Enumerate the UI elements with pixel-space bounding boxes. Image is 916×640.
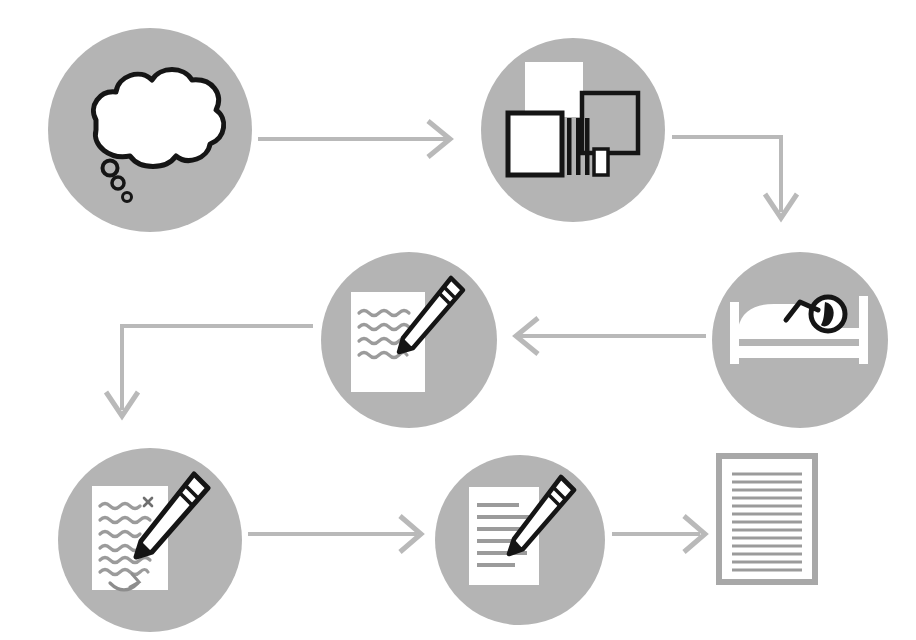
node-sleep-incubation[interactable]: [712, 252, 888, 428]
node-handwritten-draft[interactable]: [321, 252, 497, 428]
connector-sleep-to-draft: [516, 318, 706, 354]
thought-bubble-icon: [48, 28, 252, 232]
node-typed-draft[interactable]: [435, 455, 605, 625]
node-final-document[interactable]: [715, 452, 819, 586]
connector-typed-to-final: [612, 516, 705, 552]
node-thought-bubble[interactable]: [48, 28, 252, 232]
node-books-research[interactable]: [481, 38, 665, 222]
diagram-canvas: [0, 0, 916, 640]
person-sleeping-in-bed-icon: [712, 252, 888, 428]
connector-thought-to-books: [258, 121, 450, 157]
connector-books-to-sleep: [672, 137, 797, 218]
handwritten-draft-pencil-icon: [321, 252, 497, 428]
revision-edit-pencil-icon: [58, 448, 242, 632]
connector-draft-to-revision: [106, 326, 313, 416]
final-document-icon: [715, 452, 819, 586]
typed-draft-pencil-icon: [435, 455, 605, 625]
node-revision-edit[interactable]: [58, 448, 242, 632]
connector-revision-to-typed: [248, 516, 421, 552]
books-research-icon: [481, 38, 665, 222]
